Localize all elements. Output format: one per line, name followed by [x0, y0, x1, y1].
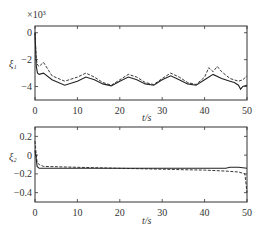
dashed-series-line [35, 141, 247, 193]
top-plot-frame [35, 26, 247, 100]
dashed-series-line [35, 33, 247, 85]
bottom-x-axis-label: t/s [142, 215, 152, 226]
x-tick-label: 40 [200, 105, 210, 116]
x-tick-label: 10 [72, 207, 82, 218]
x-tick-label: 10 [72, 105, 82, 116]
x-tick-label: 0 [33, 105, 38, 116]
x-tick-label: 20 [115, 207, 125, 218]
y-tick-label: 0.2 [20, 131, 33, 142]
x-tick-label: 30 [157, 207, 167, 218]
y-tick-label: −4 [21, 81, 32, 92]
y-tick-label: −0.4 [14, 187, 32, 198]
chart-figure: 01020304050 0−2−4 ×10³ ξ₁ t/s 0102030405… [0, 0, 253, 226]
bottom-y-axis-label: ξ₂ [9, 151, 17, 163]
bottom-plot-series [35, 141, 247, 193]
y-tick-label: −0.2 [14, 168, 32, 179]
top-x-axis-label: t/s [142, 112, 152, 123]
bottom-y-ticks: 0.20−0.2−0.4 [14, 131, 247, 198]
top-plot-series [35, 33, 247, 89]
y-tick-label: 0 [27, 27, 32, 38]
top-y-axis-label: ξ₁ [9, 58, 17, 70]
x-tick-label: 20 [115, 105, 125, 116]
x-tick-label: 40 [200, 207, 210, 218]
top-x-ticks: 01020304050 [33, 26, 253, 116]
x-tick-label: 0 [33, 207, 38, 218]
x-tick-label: 50 [242, 207, 252, 218]
y-tick-label: 0 [27, 150, 32, 161]
solid-series-line [35, 150, 247, 168]
x-tick-label: 50 [242, 105, 252, 116]
x-tick-label: 30 [157, 105, 167, 116]
top-y-ticks: 0−2−4 [21, 27, 247, 92]
bottom-plot-frame [35, 127, 247, 202]
bottom-x-ticks: 01020304050 [33, 127, 253, 218]
top-multiplier-label: ×10³ [27, 9, 46, 20]
y-tick-label: −2 [21, 54, 32, 65]
